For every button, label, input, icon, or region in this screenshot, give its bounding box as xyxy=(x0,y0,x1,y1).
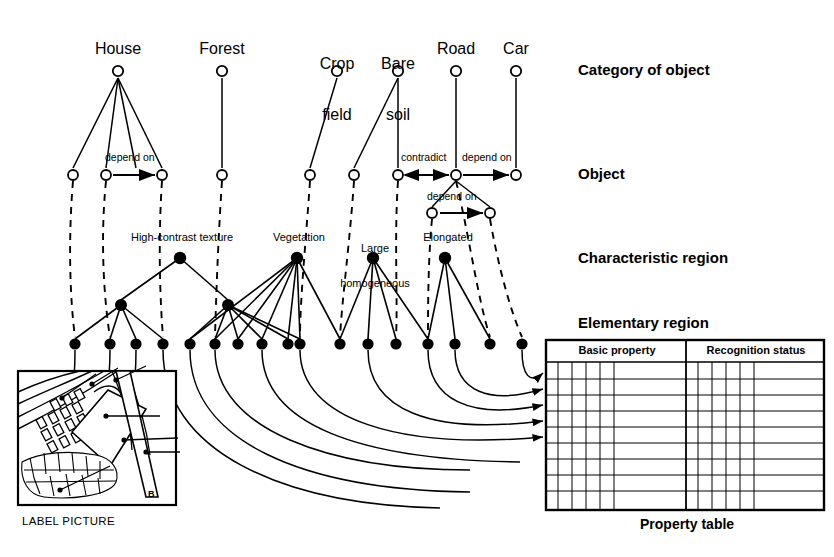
characteristic-label-homogeneous: homogeneous xyxy=(331,278,419,290)
elementary-node xyxy=(209,338,220,349)
sub-object-node-1 xyxy=(427,208,437,218)
table-header-basic-property: Basic property xyxy=(552,345,682,357)
elementary-node xyxy=(184,338,195,349)
sub-object-node-2 xyxy=(485,208,495,218)
layer-label-characteristic-region: Characteristic region xyxy=(578,250,728,266)
category-label-crop-field: Crop field xyxy=(302,20,372,158)
intermediate-node-1 xyxy=(115,299,127,311)
category-label-bare-soil-line2: soil xyxy=(365,106,431,123)
characteristic-node-vegetation xyxy=(291,252,303,264)
elementary-node xyxy=(516,338,527,349)
elementary-node xyxy=(157,338,168,349)
elementary-node xyxy=(69,338,80,349)
elementary-node xyxy=(390,338,401,349)
category-node-car xyxy=(511,66,521,76)
object-node-5 xyxy=(305,170,315,180)
object-node-9 xyxy=(511,170,521,180)
characteristic-node-elongated xyxy=(439,252,451,264)
object-node-3 xyxy=(157,170,167,180)
category-label-car: Car xyxy=(486,40,546,57)
elementary-node xyxy=(130,338,141,349)
category-label-crop-field-line2: field xyxy=(302,106,372,123)
relation-label-contradict: contradict xyxy=(401,152,447,163)
elementary-node xyxy=(294,338,305,349)
category-node-road xyxy=(451,66,461,76)
characteristic-label-vegetation: Vegetation xyxy=(261,232,337,244)
elementary-node-group xyxy=(69,338,527,349)
table-header-recognition-status: Recognition status xyxy=(692,345,820,357)
elementary-node xyxy=(484,338,495,349)
object-node-6 xyxy=(349,170,359,180)
characteristic-label-large: Large xyxy=(331,243,419,255)
elementary-node xyxy=(334,338,345,349)
relation-label-depend-on-elongated: depend on xyxy=(427,191,477,202)
pebble-texture xyxy=(22,452,117,498)
object-node-8 xyxy=(451,170,461,180)
property-table-grid xyxy=(546,340,824,510)
object-node-1 xyxy=(68,170,78,180)
elementary-node xyxy=(362,338,373,349)
elementary-node xyxy=(422,338,433,349)
category-label-house: House xyxy=(78,40,158,57)
intermediate-node-2 xyxy=(222,299,234,311)
label-picture-caption: LABEL PICTURE xyxy=(22,515,115,527)
diagram-canvas: B xyxy=(0,0,834,557)
svg-text:B: B xyxy=(148,489,155,499)
category-node-house xyxy=(113,66,123,76)
layer-label-category-of-object: Category of object xyxy=(578,62,710,78)
relation-label-depend-on-house: depend on xyxy=(105,152,155,163)
characteristic-label-high-contrast-texture: High-contrast texture xyxy=(112,232,252,244)
elementary-node xyxy=(282,338,293,349)
elementary-node xyxy=(449,338,460,349)
elementary-node xyxy=(104,338,115,349)
elementary-node xyxy=(256,338,267,349)
object-node-7 xyxy=(393,170,403,180)
label-picture: B xyxy=(18,366,180,505)
category-label-crop-field-line1: Crop xyxy=(302,55,372,72)
layer-label-elementary-region: Elementary region xyxy=(578,315,709,331)
category-label-road: Road xyxy=(421,40,491,57)
property-table-caption: Property table xyxy=(640,517,734,532)
category-label-forest: Forest xyxy=(182,40,262,57)
characteristic-label-elongated: Elongated xyxy=(414,232,482,244)
layer-label-object: Object xyxy=(578,166,625,182)
elementary-node xyxy=(232,338,243,349)
category-node-forest xyxy=(217,66,227,76)
characteristic-label-large-homogeneous: Large homogeneous xyxy=(331,219,419,314)
object-node-4 xyxy=(217,170,227,180)
object-node-2 xyxy=(101,170,111,180)
relation-label-depend-on-road: depend on xyxy=(462,152,512,163)
characteristic-node-high-contrast-texture xyxy=(174,252,186,264)
